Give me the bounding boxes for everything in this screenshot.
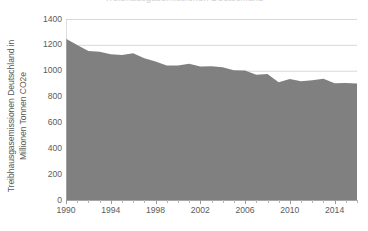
x-tick-label: 2002	[180, 205, 220, 216]
x-tick-mark	[268, 200, 269, 203]
y-tick-label: 1000	[26, 66, 62, 75]
x-tick-mark	[357, 200, 358, 203]
x-tick-mark	[346, 200, 347, 203]
y-tick-label: 800	[26, 92, 62, 101]
x-tick-mark	[88, 200, 89, 203]
x-tick-mark	[189, 200, 190, 203]
x-tick-label: 1990	[46, 205, 86, 216]
x-tick-mark	[312, 200, 313, 203]
x-tick-mark	[144, 200, 145, 203]
x-tick-mark	[100, 200, 101, 203]
y-tick-label: 200	[26, 170, 62, 179]
y-tick-label: 1200	[26, 40, 62, 49]
x-tick-mark	[256, 200, 257, 203]
x-tick-mark	[335, 200, 336, 204]
y-axis-title-line-1: Treibhausgasemissionen Deutschland in	[6, 16, 18, 216]
chart-container: Treibhausgasemissionen Deutschland Treib…	[0, 0, 368, 231]
x-tick-mark	[279, 200, 280, 203]
series-area-emissions	[66, 39, 357, 200]
bottom-margin	[0, 219, 368, 231]
x-tick-label: 1998	[136, 205, 176, 216]
x-tick-mark	[111, 200, 112, 204]
x-tick-mark	[66, 200, 67, 204]
y-tick-label: 400	[26, 144, 62, 153]
x-tick-mark	[77, 200, 78, 203]
x-tick-mark	[212, 200, 213, 203]
x-tick-mark	[290, 200, 291, 204]
area-chart-svg	[66, 19, 357, 200]
x-tick-mark	[178, 200, 179, 203]
y-tick-label: 0	[26, 196, 62, 205]
x-tick-mark	[223, 200, 224, 203]
x-axis-ticks	[66, 200, 357, 204]
x-tick-label: 2014	[315, 205, 355, 216]
y-axis-tick-labels: 0200400600800100012001400	[26, 0, 62, 231]
x-tick-label: 2006	[225, 205, 265, 216]
x-tick-mark	[156, 200, 157, 204]
x-tick-mark	[122, 200, 123, 203]
x-axis-tick-labels: 1990199419982002200620102014	[0, 205, 368, 219]
x-tick-mark	[301, 200, 302, 203]
x-tick-mark	[200, 200, 201, 204]
x-tick-label: 2010	[270, 205, 310, 216]
x-tick-mark	[245, 200, 246, 204]
x-tick-mark	[234, 200, 235, 203]
plot-area	[66, 19, 357, 200]
x-tick-mark	[133, 200, 134, 203]
y-tick-label: 600	[26, 118, 62, 127]
x-tick-mark	[167, 200, 168, 203]
x-tick-mark	[323, 200, 324, 203]
x-tick-label: 1994	[91, 205, 131, 216]
y-tick-label: 1400	[26, 15, 62, 24]
chart-title-text: Treibhausgasemissionen Deutschland	[104, 0, 263, 3]
